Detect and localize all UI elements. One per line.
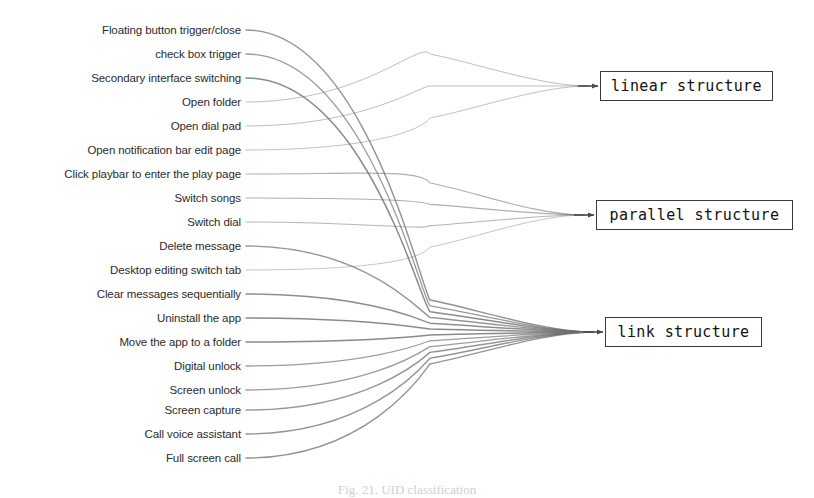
flow-link-open-notification-bar-edit-page-to-linear [246, 86, 588, 150]
source-label-move-the-app-to-a-folder: Move the app to a folder [119, 336, 241, 348]
source-label-secondary-interface-switching: Secondary interface switching [91, 72, 241, 84]
source-label-open-folder: Open folder [182, 96, 241, 108]
flow-link-check-box-trigger-to-link [246, 54, 593, 332]
source-label-screen-capture: Screen capture [164, 404, 241, 416]
source-label-floating-button-trigger-close: Floating button trigger/close [102, 24, 241, 36]
target-box-linear[interactable]: linear structure [600, 71, 773, 101]
source-label-desktop-editing-switch-tab: Desktop editing switch tab [110, 264, 241, 276]
target-box-parallel[interactable]: parallel structure [596, 200, 793, 230]
source-label-check-box-trigger: check box trigger [155, 48, 241, 60]
flow-link-click-playbar-to-enter-play-page-to-parallel [246, 173, 584, 215]
flow-link-desktop-editing-switch-tab-to-parallel [246, 215, 584, 270]
target-box-link[interactable]: link structure [605, 317, 762, 347]
source-label-click-playbar-to-enter-play-page: Click playbar to enter the play page [64, 168, 241, 180]
flow-link-call-voice-assistant-to-link [246, 332, 593, 434]
flow-link-full-screen-call-to-link [246, 332, 593, 458]
source-label-delete-message: Delete message [159, 240, 241, 252]
source-label-open-dial-pad: Open dial pad [171, 120, 241, 132]
source-label-open-notification-bar-edit-page: Open notification bar edit page [87, 144, 241, 156]
source-label-switch-songs: Switch songs [174, 192, 241, 204]
source-label-full-screen-call: Full screen call [166, 452, 241, 464]
flow-link-switch-songs-to-parallel [246, 198, 584, 215]
figure-caption: Fig. 21. UID classification [0, 482, 814, 498]
source-label-call-voice-assistant: Call voice assistant [145, 428, 241, 440]
flow-link-open-folder-to-linear [246, 52, 588, 102]
flow-link-screen-capture-to-link [246, 332, 593, 410]
source-label-digital-unlock: Digital unlock [174, 360, 241, 372]
flow-link-secondary-interface-switching-to-link [246, 78, 593, 332]
source-label-uninstall-the-app: Uninstall the app [157, 312, 241, 324]
source-label-clear-messages-sequentially: Clear messages sequentially [97, 288, 241, 300]
source-label-switch-dial: Switch dial [187, 216, 241, 228]
source-label-screen-unlock: Screen unlock [169, 384, 241, 396]
